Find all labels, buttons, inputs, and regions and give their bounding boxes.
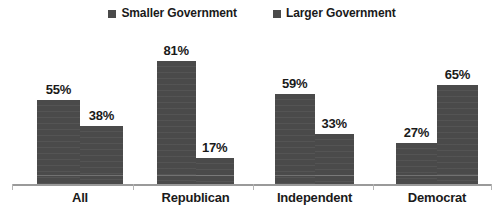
bar-value-label: 55% bbox=[46, 82, 71, 97]
axis-baseline bbox=[12, 184, 492, 186]
bar-republican-larger[interactable]: 17% bbox=[196, 158, 235, 184]
bar-group-independent: 59%33% bbox=[275, 39, 354, 184]
bars-row: 27%65% bbox=[396, 39, 478, 184]
bar-value-label: 17% bbox=[202, 140, 227, 155]
bar-value-label: 38% bbox=[89, 108, 114, 123]
axis-tick-4 bbox=[491, 184, 492, 190]
bar-value-label: 27% bbox=[404, 125, 429, 140]
axis-tick-1 bbox=[133, 184, 134, 190]
bar-group-democrat: 27%65% bbox=[396, 39, 478, 184]
axis-tick-3 bbox=[373, 184, 374, 190]
bar-democrat-smaller[interactable]: 27% bbox=[396, 143, 437, 184]
category-label-independent: Independent bbox=[275, 190, 354, 205]
bar-all-larger[interactable]: 38% bbox=[80, 126, 123, 184]
category-label-republican: Republican bbox=[157, 190, 234, 205]
category-label-democrat: Democrat bbox=[396, 190, 478, 205]
bar-group-republican: 81%17% bbox=[157, 39, 234, 184]
axis-tick-2 bbox=[253, 184, 254, 190]
bars-row: 55%38% bbox=[37, 39, 123, 184]
bar-all-smaller[interactable]: 55% bbox=[37, 100, 80, 184]
bar-independent-larger[interactable]: 33% bbox=[315, 134, 355, 184]
axis-tick-0 bbox=[12, 184, 13, 190]
bar-value-label: 33% bbox=[322, 116, 347, 131]
bar-independent-smaller[interactable]: 59% bbox=[275, 94, 315, 184]
bar-group-all: 55%38% bbox=[37, 39, 123, 184]
bar-chart: Smaller GovernmentLarger Government 55%3… bbox=[0, 0, 504, 224]
bar-democrat-larger[interactable]: 65% bbox=[437, 85, 478, 184]
bar-value-label: 59% bbox=[282, 76, 307, 91]
bars-row: 81%17% bbox=[157, 39, 234, 184]
bars-row: 59%33% bbox=[275, 39, 354, 184]
bar-value-label: 65% bbox=[445, 67, 470, 82]
category-label-all: All bbox=[37, 190, 123, 205]
bar-republican-smaller[interactable]: 81% bbox=[157, 61, 196, 184]
bar-value-label: 81% bbox=[164, 43, 189, 58]
